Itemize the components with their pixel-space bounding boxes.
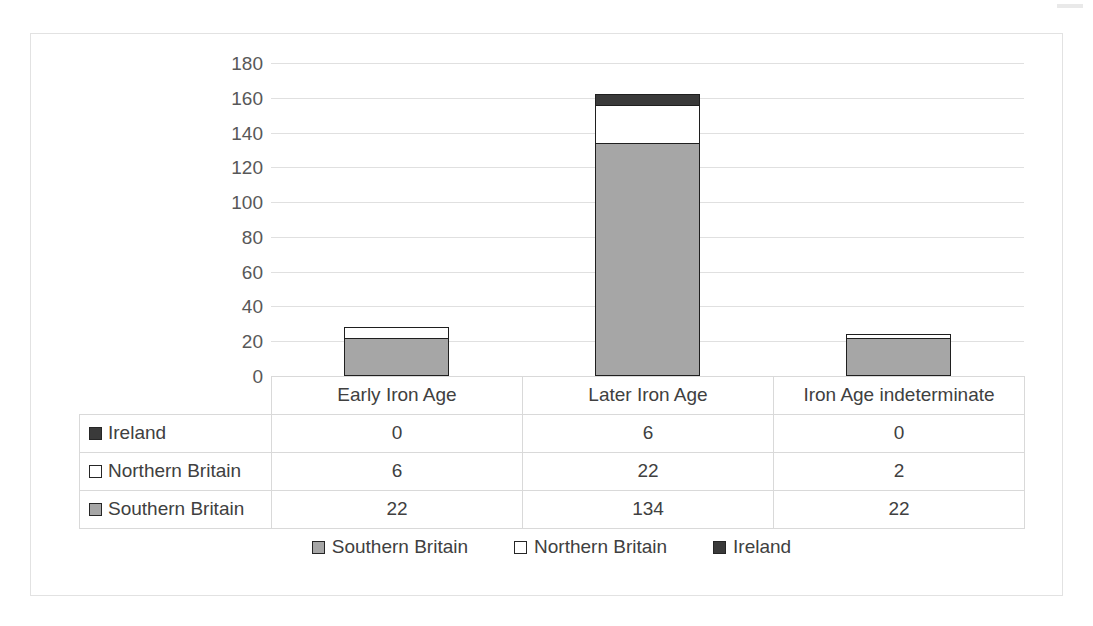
data-cell: 22 bbox=[523, 452, 774, 490]
y-axis-tick-label: 140 bbox=[231, 123, 263, 142]
bar-column bbox=[846, 334, 951, 376]
data-cell: 22 bbox=[774, 490, 1025, 528]
data-cell: 2 bbox=[774, 452, 1025, 490]
legend-swatch-icon bbox=[89, 427, 102, 440]
legend-swatch-icon bbox=[312, 541, 325, 554]
table-header-row: Early Iron AgeLater Iron AgeIron Age ind… bbox=[80, 377, 1025, 415]
series-label-cell: Ireland bbox=[80, 414, 272, 452]
legend-item: Northern Britain bbox=[514, 536, 667, 558]
legend-item: Ireland bbox=[713, 536, 791, 558]
bar-segment bbox=[595, 143, 700, 376]
gridline bbox=[271, 63, 1024, 64]
data-cell: 6 bbox=[272, 452, 523, 490]
bar-segment bbox=[595, 94, 700, 104]
data-cell: 22 bbox=[272, 490, 523, 528]
bar-segment bbox=[344, 327, 449, 337]
chart-legend: Southern BritainNorthern BritainIreland bbox=[79, 536, 1024, 558]
data-cell: 6 bbox=[523, 414, 774, 452]
chart-container: 180160140120100806040200 Early Iron AgeL… bbox=[30, 33, 1063, 596]
legend-swatch-icon bbox=[514, 541, 527, 554]
series-label-text: Ireland bbox=[108, 422, 166, 443]
data-cell: 0 bbox=[272, 414, 523, 452]
y-axis-tick-label: 160 bbox=[231, 88, 263, 107]
legend-swatch-icon bbox=[89, 503, 102, 516]
data-cell: 0 bbox=[774, 414, 1025, 452]
table-corner-cell bbox=[80, 377, 272, 415]
legend-item: Southern Britain bbox=[312, 536, 468, 558]
bar-segment bbox=[846, 338, 951, 376]
legend-swatch-icon bbox=[89, 465, 102, 478]
legend-label: Southern Britain bbox=[332, 536, 468, 558]
bar-column bbox=[595, 94, 700, 376]
scan-artifact bbox=[1057, 4, 1083, 8]
data-table: Early Iron AgeLater Iron AgeIron Age ind… bbox=[79, 376, 1025, 529]
table-row: Ireland060 bbox=[80, 414, 1025, 452]
series-label-text: Southern Britain bbox=[108, 498, 244, 519]
bar-segment bbox=[344, 338, 449, 376]
category-header-cell: Early Iron Age bbox=[272, 377, 523, 415]
legend-label: Ireland bbox=[733, 536, 791, 558]
y-axis-tick-label: 60 bbox=[242, 262, 263, 281]
category-header-cell: Later Iron Age bbox=[523, 377, 774, 415]
y-axis-tick-label: 20 bbox=[242, 332, 263, 351]
y-axis-tick-label: 40 bbox=[242, 297, 263, 316]
table-row: Northern Britain6222 bbox=[80, 452, 1025, 490]
y-axis-tick-label: 80 bbox=[242, 227, 263, 246]
bar-segment bbox=[595, 105, 700, 143]
y-axis: 180160140120100806040200 bbox=[201, 63, 263, 376]
series-label-cell: Northern Britain bbox=[80, 452, 272, 490]
table-row: Southern Britain2213422 bbox=[80, 490, 1025, 528]
legend-label: Northern Britain bbox=[534, 536, 667, 558]
category-header-cell: Iron Age indeterminate bbox=[774, 377, 1025, 415]
series-label-text: Northern Britain bbox=[108, 460, 241, 481]
legend-swatch-icon bbox=[713, 541, 726, 554]
y-axis-tick-label: 120 bbox=[231, 158, 263, 177]
data-cell: 134 bbox=[523, 490, 774, 528]
plot-area bbox=[271, 63, 1024, 376]
bar-column bbox=[344, 327, 449, 376]
series-label-cell: Southern Britain bbox=[80, 490, 272, 528]
y-axis-tick-label: 100 bbox=[231, 193, 263, 212]
y-axis-tick-label: 180 bbox=[231, 54, 263, 73]
